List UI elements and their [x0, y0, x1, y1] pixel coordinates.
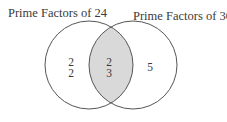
right-only-value-1: 5	[145, 62, 155, 74]
left-only-value-2: 2	[66, 68, 76, 80]
right-set-label: Prime Factors of 30	[133, 9, 227, 24]
left-set-label: Prime Factors of 24	[8, 6, 107, 21]
intersection-value-2: 3	[104, 68, 114, 80]
